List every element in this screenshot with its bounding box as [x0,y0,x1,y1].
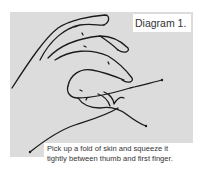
diagram-title: Diagram 1. [135,17,186,29]
diagram-caption: Pick up a fold of skin and squeeze it ti… [47,144,197,164]
caption-line-1: Pick up a fold of skin and squeeze it [47,144,197,154]
caption-line-2: tightly between thumb and first finger. [47,154,197,164]
